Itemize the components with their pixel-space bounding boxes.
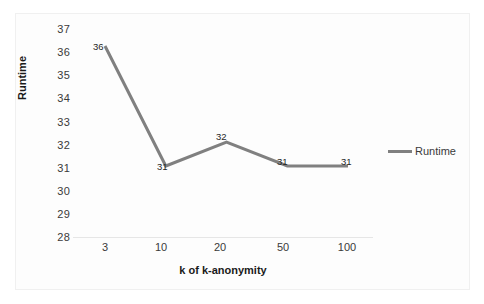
x-tick-label: 3 [85,241,125,253]
y-axis-tick-labels: 37 36 35 34 33 32 31 30 29 28 [40,0,70,304]
legend-line-swatch [388,150,412,153]
y-tick-label: 37 [44,24,70,35]
y-tick-label: 30 [44,186,70,197]
chart-legend: Runtime [388,145,456,157]
data-point-label: 32 [216,132,227,142]
data-point-label: 31 [341,157,352,167]
y-tick-label: 32 [44,140,70,151]
legend-label-runtime: Runtime [415,145,456,157]
y-axis-title: Runtime [16,56,28,100]
plot-area [73,22,373,238]
y-tick-label: 33 [44,117,70,128]
y-tick-label: 31 [44,163,70,174]
x-tick-label: 100 [327,241,367,253]
y-tick-label: 36 [44,47,70,58]
y-tick-label: 35 [44,70,70,81]
y-tick-label: 28 [44,232,70,243]
data-point-label: 36 [93,42,104,52]
x-axis-title: k of k-anonymity [73,264,373,276]
x-tick-label: 50 [263,241,303,253]
y-tick-label: 34 [44,93,70,104]
series-svg [73,22,373,238]
y-tick-label: 29 [44,209,70,220]
chart-screenshot: Runtime 37 36 35 34 33 32 31 30 29 28 36… [0,0,484,304]
data-point-label: 31 [157,162,168,172]
runtime-series-line [105,46,348,166]
data-point-label: 31 [277,157,288,167]
x-tick-label: 10 [141,241,181,253]
x-tick-label: 20 [200,241,240,253]
